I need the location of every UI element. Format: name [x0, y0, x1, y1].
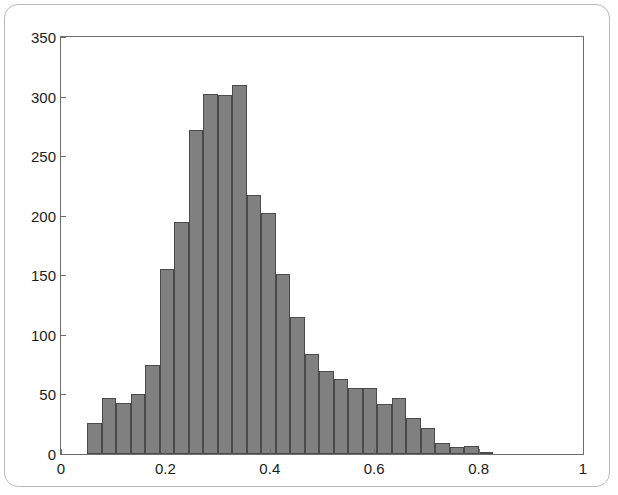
- x-tick-label: 0.8: [468, 461, 489, 476]
- figure-container: 050100150200250300350 00.20.40.60.81: [0, 0, 618, 495]
- x-axis-tick-labels: 00.20.40.60.81: [0, 0, 618, 495]
- x-tick-label: 0.2: [155, 461, 176, 476]
- x-tick-label: 0: [57, 461, 65, 476]
- plot-wrapper: 050100150200250300350 00.20.40.60.81: [0, 0, 618, 495]
- x-tick-label: 0.6: [364, 461, 385, 476]
- x-tick-label: 1: [579, 461, 587, 476]
- x-tick-label: 0.4: [259, 461, 280, 476]
